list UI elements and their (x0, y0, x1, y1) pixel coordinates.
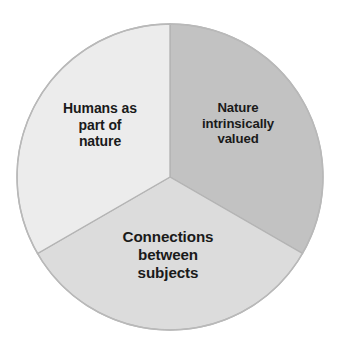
pie-slices (17, 24, 323, 330)
pie-chart: Nature intrinsically valued Connections … (0, 0, 339, 352)
pie-chart-canvas (0, 0, 339, 352)
